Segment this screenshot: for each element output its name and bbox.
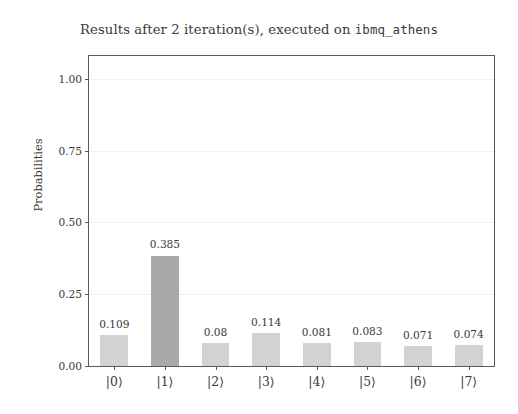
bar bbox=[100, 335, 128, 366]
bar-value-label: 0.081 bbox=[302, 326, 332, 338]
x-tick-mark bbox=[114, 366, 115, 370]
x-tick-mark bbox=[317, 366, 318, 370]
bar bbox=[151, 256, 179, 367]
y-tick-mark bbox=[85, 79, 89, 80]
x-tick-mark bbox=[469, 366, 470, 370]
chart-title-backend: ibmq_athens bbox=[355, 22, 438, 37]
x-tick-label: |7⟩ bbox=[460, 374, 477, 389]
bar-value-label: 0.08 bbox=[204, 326, 228, 338]
y-axis-label: Probabilities bbox=[31, 115, 45, 235]
y-tick-mark bbox=[85, 222, 89, 223]
x-tick-mark bbox=[266, 366, 267, 370]
bar bbox=[202, 343, 230, 366]
y-tick-label: 0.25 bbox=[58, 288, 82, 300]
y-tick-label: 0.50 bbox=[58, 216, 82, 228]
y-tick-mark bbox=[85, 294, 89, 295]
y-tick-label: 0.75 bbox=[58, 145, 82, 157]
bar-value-label: 0.074 bbox=[454, 328, 484, 340]
x-tick-label: |0⟩ bbox=[106, 374, 123, 389]
bar-value-label: 0.385 bbox=[150, 238, 180, 250]
bar bbox=[404, 346, 432, 366]
x-tick-label: |4⟩ bbox=[308, 374, 325, 389]
y-gridline bbox=[89, 294, 494, 295]
y-gridline bbox=[89, 79, 494, 80]
chart-title: Results after 2 iteration(s), executed o… bbox=[0, 22, 518, 37]
x-tick-label: |6⟩ bbox=[410, 374, 427, 389]
bar-value-label: 0.114 bbox=[251, 316, 281, 328]
x-tick-label: |3⟩ bbox=[258, 374, 275, 389]
x-tick-mark bbox=[165, 366, 166, 370]
bar-value-label: 0.083 bbox=[352, 325, 382, 337]
x-tick-mark bbox=[367, 366, 368, 370]
x-tick-label: |2⟩ bbox=[207, 374, 224, 389]
y-gridline bbox=[89, 222, 494, 223]
bar bbox=[455, 345, 483, 366]
bar-value-label: 0.071 bbox=[403, 329, 433, 341]
plot-area: 0.000.250.500.751.000.109|0⟩0.385|1⟩0.08… bbox=[88, 55, 495, 367]
bar-value-label: 0.109 bbox=[99, 318, 129, 330]
bar bbox=[354, 342, 382, 366]
y-tick-label: 1.00 bbox=[58, 73, 82, 85]
x-tick-label: |5⟩ bbox=[359, 374, 376, 389]
y-tick-mark bbox=[85, 366, 89, 367]
x-tick-mark bbox=[216, 366, 217, 370]
chart-figure: Results after 2 iteration(s), executed o… bbox=[0, 0, 518, 414]
chart-title-text: Results after 2 iteration(s), executed o… bbox=[80, 22, 355, 37]
y-gridline bbox=[89, 151, 494, 152]
bar bbox=[252, 333, 280, 366]
y-tick-mark bbox=[85, 151, 89, 152]
x-tick-mark bbox=[418, 366, 419, 370]
x-tick-label: |1⟩ bbox=[156, 374, 173, 389]
bar bbox=[303, 343, 331, 366]
y-tick-label: 0.00 bbox=[58, 360, 82, 372]
